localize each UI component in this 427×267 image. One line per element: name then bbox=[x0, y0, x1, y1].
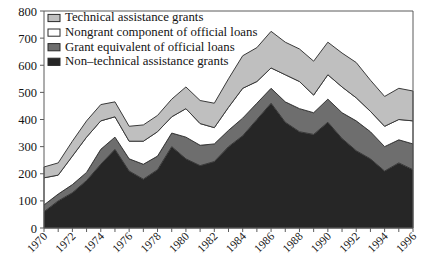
legend-label: Nongrant component of official loans bbox=[65, 25, 257, 39]
y-tick-label: 800 bbox=[18, 5, 37, 19]
x-tick-label: 1984 bbox=[223, 230, 248, 255]
y-tick-label: 700 bbox=[18, 32, 37, 46]
x-tick-label: 1986 bbox=[252, 230, 277, 255]
stacked-area-chart: 0100200300400500600700800197019721974197… bbox=[0, 0, 427, 267]
legend-label: Non–technical assistance grants bbox=[65, 54, 228, 68]
x-tick-label: 1976 bbox=[110, 230, 135, 255]
legend: Technical assistance grantsNongrant comp… bbox=[48, 10, 257, 68]
legend-swatch bbox=[48, 44, 60, 51]
x-tick-label: 1996 bbox=[394, 230, 419, 255]
x-tick-label: 1978 bbox=[138, 230, 163, 255]
x-tick-label: 1980 bbox=[167, 230, 192, 255]
y-tick-label: 100 bbox=[18, 194, 37, 208]
x-tick-label: 1974 bbox=[81, 230, 106, 255]
x-tick-label: 1982 bbox=[195, 230, 220, 255]
legend-swatch bbox=[48, 29, 60, 36]
y-tick-label: 400 bbox=[18, 113, 37, 127]
x-tick-label: 1992 bbox=[337, 230, 362, 255]
legend-label: Grant equivalent of official loans bbox=[65, 40, 235, 54]
legend-label: Technical assistance grants bbox=[65, 10, 203, 24]
legend-swatch bbox=[48, 14, 60, 21]
chart-container: 0100200300400500600700800197019721974197… bbox=[0, 0, 427, 267]
legend-swatch bbox=[48, 58, 60, 65]
y-axis: 0100200300400500600700800 bbox=[18, 5, 44, 236]
y-tick-label: 0 bbox=[31, 222, 37, 236]
y-tick-label: 500 bbox=[18, 86, 37, 100]
y-tick-label: 200 bbox=[18, 167, 37, 181]
x-tick-label: 1988 bbox=[280, 230, 305, 255]
x-tick-label: 1994 bbox=[365, 230, 390, 255]
y-tick-label: 600 bbox=[18, 59, 37, 73]
x-tick-label: 1990 bbox=[309, 230, 334, 255]
y-tick-label: 300 bbox=[18, 140, 37, 154]
x-axis: 1970197219741976197819801982198419861988… bbox=[25, 228, 419, 255]
x-tick-label: 1970 bbox=[25, 230, 50, 255]
x-tick-label: 1972 bbox=[53, 230, 78, 255]
